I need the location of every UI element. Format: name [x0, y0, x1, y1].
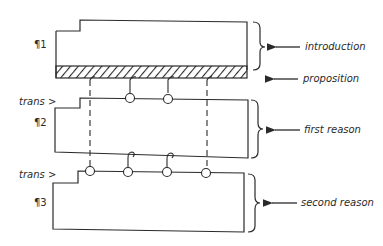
dashed-guides — [90, 80, 207, 176]
paragraph-1-block — [56, 20, 247, 78]
paragraph-1-marker: ¶1 — [34, 40, 47, 50]
paragraph-2-marker: ¶2 — [34, 118, 47, 128]
transition-label-2: trans > — [19, 97, 56, 107]
paragraph-3-block — [53, 171, 244, 232]
joint-circle — [126, 94, 135, 103]
label-second-reason: second reason — [301, 198, 374, 208]
joint-circle — [163, 168, 172, 177]
brace-introduction — [253, 22, 265, 70]
label-proposition: proposition — [303, 74, 359, 84]
joint-circle — [164, 95, 173, 104]
label-first-reason: first reason — [304, 125, 361, 135]
brace-second-reason — [248, 174, 260, 232]
joint-circle — [86, 167, 95, 176]
braces — [248, 22, 265, 232]
paragraph-2-block — [55, 98, 248, 158]
brace-first-reason — [251, 100, 263, 158]
joint-circle — [124, 168, 133, 177]
label-introduction: introduction — [305, 42, 366, 52]
essay-structure-diagram — [0, 0, 383, 246]
paragraph-3-marker: ¶3 — [34, 198, 47, 208]
joint-circle — [202, 169, 211, 178]
proposition-band — [56, 66, 247, 78]
arrows — [272, 47, 300, 203]
transition-label-3: trans > — [19, 170, 56, 180]
